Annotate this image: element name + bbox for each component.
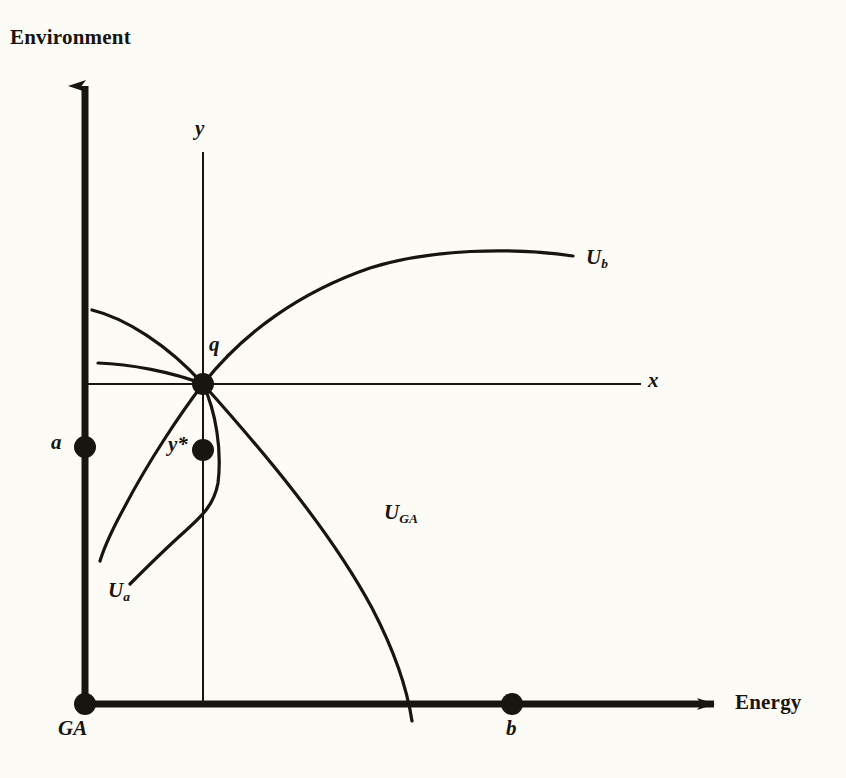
inner-x-axis-label: x [648,370,659,391]
curve-label-ua: Ua [108,580,130,603]
environment-axis-title: Environment [10,27,131,48]
curve-uga-lower-branch [100,384,203,561]
point-b [501,693,523,715]
curve-ub [203,251,573,384]
point-label-q: q [209,334,220,355]
point-label-b: b [506,718,517,739]
figure-drawing [0,0,846,778]
point-q [192,373,214,395]
curve-ua-lower [130,384,219,584]
point-label-ga: GA [58,718,87,739]
point-label-ystar: y* [168,434,188,455]
curve-label-ua-sub: a [123,589,130,604]
curve-label-uga: UGA [384,502,418,525]
curve-label-ua-base: U [108,578,123,602]
point-label-a: a [51,432,62,453]
point-ystar [192,439,214,461]
curve-label-ub: Ub [586,247,608,270]
curve-label-ub-base: U [586,245,601,269]
curve-label-ub-sub: b [601,256,608,271]
point-ga [74,693,96,715]
curve-label-uga-sub: GA [399,511,418,526]
energy-axis-title: Energy [735,692,802,713]
inner-y-axis-label: y [195,118,204,139]
curve-uga [92,310,412,721]
figure-container: Environment Energy x y q y* a b GA Ub UG… [0,0,846,778]
point-a [74,436,96,458]
curve-label-uga-base: U [384,500,399,524]
